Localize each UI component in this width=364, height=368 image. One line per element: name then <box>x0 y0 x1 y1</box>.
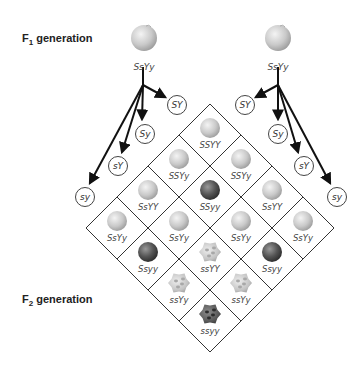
right-gamete-arrows <box>256 67 330 183</box>
cell-genotype: SsYy <box>154 233 204 243</box>
pea-round-yellow-icon <box>293 211 313 231</box>
pea-round-yellow-icon <box>231 211 251 231</box>
gamete-left-2: Sy <box>135 124 155 144</box>
parent-left-genotype: SsYy <box>133 62 154 72</box>
parent-pea-right-icon <box>265 25 291 51</box>
cell-genotype: SSYy <box>154 171 204 181</box>
cell-genotype: Ssyy <box>123 264 173 274</box>
diagram-art <box>0 0 364 368</box>
pea-round-yellow-icon <box>169 149 189 169</box>
parent-right: SsYy <box>248 55 308 74</box>
gamete-right-3: sY <box>294 156 314 176</box>
gamete-left-1: SY <box>167 95 187 115</box>
cell-genotype: SsYy <box>92 233 142 243</box>
gamete-left-3: sY <box>108 156 128 176</box>
pea-round-yellow-icon <box>169 211 189 231</box>
cell-genotype: SsYY <box>247 202 297 212</box>
parent-pea-left-icon <box>131 25 157 51</box>
parent-left: SsYy <box>114 55 174 74</box>
pea-wrinkled-yellow-icon <box>230 274 252 293</box>
dihybrid-cross-diagram: F1 generation F2 generation <box>0 0 364 368</box>
pea-round-green-icon <box>200 180 220 200</box>
pea-round-yellow-icon <box>138 180 158 200</box>
gamete-right-2: Sy <box>268 124 288 144</box>
gamete-right-4: sy <box>327 187 347 207</box>
cell-genotype: SsYy <box>278 233 328 243</box>
gamete-left-4: sy <box>75 187 95 207</box>
pea-wrinkled-yellow-icon <box>199 243 221 262</box>
cell-genotype: SSyy <box>185 202 235 212</box>
pea-round-yellow-icon <box>200 118 220 138</box>
pea-round-yellow-icon <box>107 211 127 231</box>
cell-genotype: SSYy <box>216 171 266 181</box>
cell-genotype: SsYY <box>123 202 173 212</box>
cell-genotype: ssYy <box>216 295 266 305</box>
pea-round-yellow-icon <box>262 180 282 200</box>
cell-genotype: ssYY <box>185 264 235 274</box>
parent-right-genotype: SsYy <box>267 62 288 72</box>
pea-round-yellow-icon <box>231 149 251 169</box>
cell-genotype: ssYy <box>154 295 204 305</box>
cell-genotype: SSYY <box>185 140 235 150</box>
cell-genotype: SsYy <box>216 233 266 243</box>
cell-genotype: ssyy <box>185 326 235 336</box>
pea-wrinkled-green-icon <box>199 305 221 324</box>
pea-round-green-icon <box>138 242 158 262</box>
pea-round-green-icon <box>262 242 282 262</box>
gamete-right-1: SY <box>235 95 255 115</box>
pea-wrinkled-yellow-icon <box>168 274 190 293</box>
cell-genotype: Ssyy <box>247 264 297 274</box>
